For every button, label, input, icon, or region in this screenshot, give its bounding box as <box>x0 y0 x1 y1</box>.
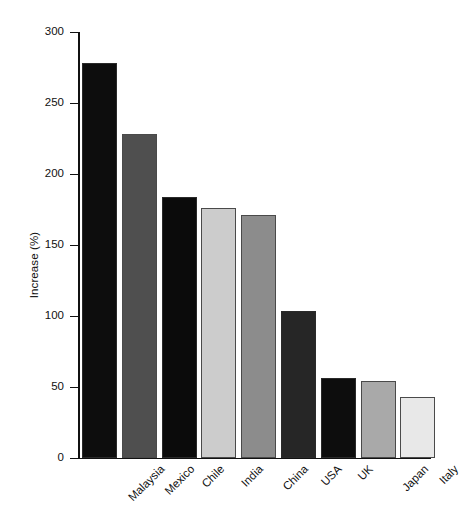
bar-uk <box>321 378 356 457</box>
bar-usa <box>281 311 316 457</box>
bar-chile <box>162 197 197 458</box>
bar-mexico <box>122 134 157 457</box>
bar-india <box>201 208 236 458</box>
bar-china <box>241 215 276 458</box>
bar-chart: Increase (%) 300250200150100500 Malaysia… <box>0 0 466 530</box>
bar-malaysia <box>82 63 117 457</box>
bar-italy <box>400 397 435 458</box>
bar-japan <box>361 381 396 458</box>
bars-layer <box>0 0 466 530</box>
